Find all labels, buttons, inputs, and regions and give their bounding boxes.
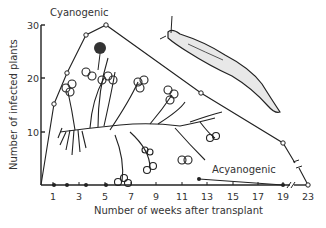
cyanogenic-label: Cyanogenic (50, 7, 109, 18)
svg-text:5: 5 (102, 191, 108, 202)
clover-flower-head (94, 42, 106, 54)
chart: Cyanogenic Acyanogenic Number of weeks a… (0, 0, 326, 228)
svg-text:1: 1 (50, 191, 56, 202)
y-axis-title: Number of infected plants (8, 39, 19, 170)
cyanogenic-line (41, 25, 295, 185)
svg-text:15: 15 (227, 191, 239, 202)
clover-illustration (58, 58, 222, 187)
svg-text:20: 20 (27, 73, 39, 84)
svg-text:3: 3 (76, 191, 82, 202)
acyanogenic-label: Acyanogenic (212, 164, 276, 175)
svg-text:19: 19 (277, 191, 289, 202)
svg-text:23: 23 (302, 191, 314, 202)
x-axis (41, 182, 308, 188)
y-tick-labels: 30 20 10 (27, 20, 39, 138)
svg-text:17: 17 (252, 191, 264, 202)
x-axis-title: Number of weeks after transplant (94, 205, 263, 216)
x-tick-labels: 1 3 5 7 9 11 13 15 17 19 23 (50, 191, 314, 202)
svg-text:11: 11 (176, 191, 188, 202)
svg-text:9: 9 (153, 191, 159, 202)
svg-text:10: 10 (27, 127, 39, 138)
svg-text:7: 7 (128, 191, 134, 202)
slug-illustration (160, 16, 280, 112)
acyanogenic-line (199, 179, 283, 185)
svg-text:30: 30 (27, 20, 39, 31)
svg-text:13: 13 (201, 191, 213, 202)
